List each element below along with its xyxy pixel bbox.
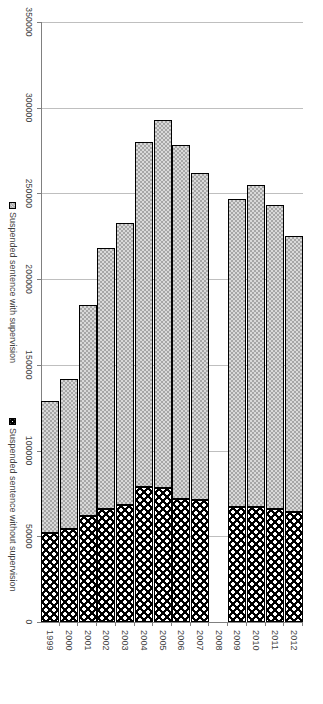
chart-legend: Suspended sentence with supervisionSuspe… [2, 22, 18, 622]
category-tick-mark [302, 622, 303, 626]
bar-segment-without-supervision[interactable] [60, 529, 78, 622]
category-tick-label-2007: 2007 [195, 630, 205, 651]
bar-segment-with-supervision[interactable] [60, 379, 78, 530]
category-tick-label-2008: 2008 [214, 630, 224, 651]
category-tick-mark [208, 622, 209, 626]
value-tick-mark [37, 536, 41, 537]
value-tick-label: 100000 [24, 436, 34, 466]
rotated-chart-wrapper: 3500003000002500002000001500001000005000… [0, 0, 323, 704]
chart-figure: 3500003000002500002000001500001000005000… [0, 0, 323, 704]
bar-segment-without-supervision[interactable] [266, 509, 284, 622]
bar-segment-without-supervision[interactable] [247, 507, 265, 622]
bar-group-2009[interactable] [229, 22, 247, 622]
bar-group-2002[interactable] [98, 22, 116, 622]
bar-group-2000[interactable] [60, 22, 78, 622]
category-tick-label-2001: 2001 [83, 630, 93, 651]
value-tick-label: 50000 [24, 524, 34, 549]
category-tick-mark [134, 622, 135, 626]
bar-segment-without-supervision[interactable] [191, 500, 209, 622]
category-tick-label-2010: 2010 [251, 630, 261, 651]
category-tick-mark [171, 622, 172, 626]
bar-segment-with-supervision[interactable] [98, 248, 116, 509]
category-tick-label-2000: 2000 [64, 630, 74, 651]
bar-segment-without-supervision[interactable] [116, 505, 134, 622]
value-tick-label: 150000 [24, 350, 34, 380]
category-tick-mark [77, 622, 78, 626]
value-tick-mark [37, 365, 41, 366]
category-tick-label-1999: 1999 [45, 630, 55, 651]
bar-group-2006[interactable] [172, 22, 190, 622]
bar-group-2011[interactable] [266, 22, 284, 622]
value-tick-mark [37, 22, 41, 23]
plot-area [41, 22, 303, 622]
value-tick-mark [37, 193, 41, 194]
value-tick-label: 200000 [24, 264, 34, 294]
legend-black-dotted-swatch-icon [10, 418, 17, 425]
bar-segment-without-supervision[interactable] [41, 533, 59, 622]
bar-segment-with-supervision[interactable] [79, 305, 97, 516]
category-tick-mark [115, 622, 116, 626]
category-tick-mark [283, 622, 284, 626]
category-tick-label-2006: 2006 [176, 630, 186, 651]
bar-group-2004[interactable] [135, 22, 153, 622]
category-tick-mark [246, 622, 247, 626]
value-tick-mark [37, 622, 41, 623]
value-tick-mark [37, 279, 41, 280]
bar-segment-without-supervision[interactable] [154, 488, 172, 622]
legend-item-1[interactable]: Suspended sentence with supervision [8, 202, 18, 363]
bar-segment-without-supervision[interactable] [172, 499, 190, 622]
category-tick-label-2004: 2004 [139, 630, 149, 651]
value-tick-label: 350000 [24, 7, 34, 37]
value-tick-label: 250000 [24, 179, 34, 209]
bar-segment-with-supervision[interactable] [135, 142, 153, 487]
value-tick-label: 0 [24, 620, 34, 625]
bar-segment-with-supervision[interactable] [41, 401, 59, 533]
category-tick-label-2005: 2005 [158, 630, 168, 651]
value-tick-mark [37, 108, 41, 109]
category-tick-label-2012: 2012 [289, 630, 299, 651]
category-tick-mark [96, 622, 97, 626]
bar-group-2007[interactable] [191, 22, 209, 622]
bar-segment-with-supervision[interactable] [229, 199, 247, 508]
bar-segment-with-supervision[interactable] [172, 145, 190, 498]
bar-segment-without-supervision[interactable] [285, 512, 303, 622]
bar-segment-with-supervision[interactable] [285, 236, 303, 512]
bar-segment-with-supervision[interactable] [154, 120, 172, 489]
bar-segment-with-supervision[interactable] [247, 185, 265, 507]
legend-label: Suspended sentence with supervision [8, 212, 18, 363]
category-tick-label-2011: 2011 [270, 630, 280, 650]
category-tick-mark [152, 622, 153, 626]
value-tick-mark [37, 451, 41, 452]
category-tick-label-2009: 2009 [233, 630, 243, 651]
bar-group-2003[interactable] [116, 22, 134, 622]
category-tick-label-2002: 2002 [102, 630, 112, 651]
bar-segment-with-supervision[interactable] [266, 205, 284, 508]
bar-segment-with-supervision[interactable] [191, 173, 209, 500]
bar-group-2001[interactable] [79, 22, 97, 622]
value-tick-label: 300000 [24, 93, 34, 123]
category-tick-mark [190, 622, 191, 626]
category-tick-label-2003: 2003 [120, 630, 130, 651]
bar-group-1999[interactable] [41, 22, 59, 622]
category-tick-mark [227, 622, 228, 626]
bar-group-2005[interactable] [154, 22, 172, 622]
legend-item-2[interactable]: Suspended sentence without supervision [8, 418, 18, 592]
legend-label: Suspended sentence without supervision [8, 428, 18, 592]
bar-group-2010[interactable] [247, 22, 265, 622]
bar-segment-without-supervision[interactable] [98, 509, 116, 622]
bar-segment-without-supervision[interactable] [79, 516, 97, 622]
bar-segment-with-supervision[interactable] [116, 223, 134, 506]
legend-gray-checker-swatch-icon [10, 202, 17, 209]
bar-segment-without-supervision[interactable] [135, 487, 153, 622]
category-tick-mark [265, 622, 266, 626]
bar-segment-without-supervision[interactable] [229, 507, 247, 622]
category-tick-mark [59, 622, 60, 626]
bar-group-2012[interactable] [285, 22, 303, 622]
